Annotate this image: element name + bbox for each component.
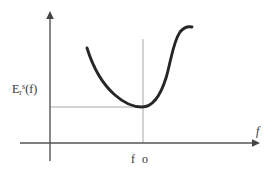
figure-container: Ers(f) f f o xyxy=(0,0,275,178)
x-axis-marker-label: f o xyxy=(131,152,150,167)
y-axis-label-argument: (f) xyxy=(25,82,37,96)
x-axis-label: f xyxy=(256,124,259,139)
y-axis-arrowhead xyxy=(46,11,54,19)
error-curve xyxy=(87,27,192,107)
y-axis-label: Ers(f) xyxy=(12,83,37,97)
x-axis-arrowhead xyxy=(252,139,260,147)
